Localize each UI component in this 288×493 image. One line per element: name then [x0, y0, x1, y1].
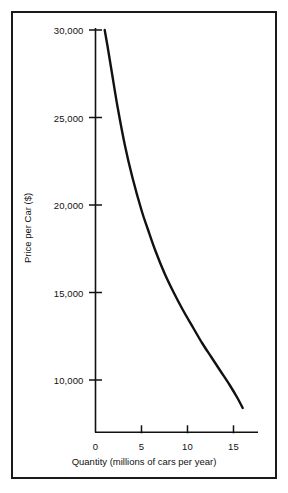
y-axis-title: Price per Car ($): [22, 193, 33, 263]
x-axis-tick-label: 15: [228, 441, 239, 452]
figure-container: 10,00015,00020,00025,00030,000 051015 Pr…: [0, 0, 288, 493]
y-axis-tick-label: 10,000: [54, 375, 84, 386]
x-axis-title: Quantity (millions of cars per year): [72, 456, 217, 467]
y-axis-tick-label: 30,000: [54, 25, 84, 36]
x-axis-tick-label: 0: [93, 441, 98, 452]
y-axis-tick-label: 15,000: [54, 287, 84, 298]
y-axis-tick-label: 25,000: [54, 112, 84, 123]
x-axis-tick-label: 10: [182, 441, 193, 452]
y-axis-tick-label: 20,000: [54, 200, 84, 211]
figure-border: [11, 11, 277, 479]
x-axis-tick-label: 5: [139, 441, 144, 452]
